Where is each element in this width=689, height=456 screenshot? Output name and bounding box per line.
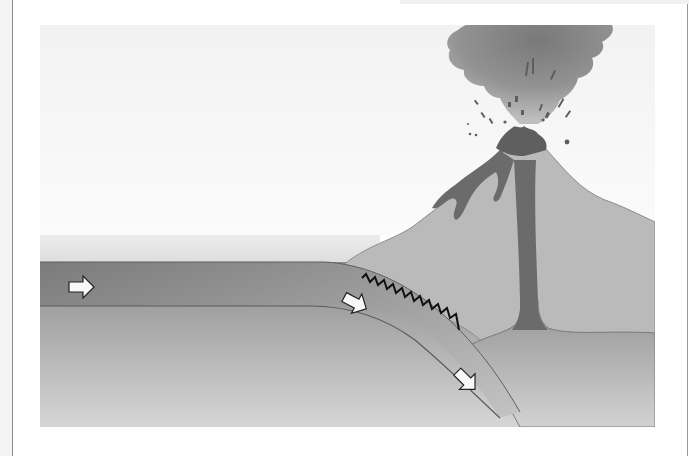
ocean [40,235,380,265]
diagram-page [0,0,689,456]
subduction-volcano-diagram [0,0,689,456]
